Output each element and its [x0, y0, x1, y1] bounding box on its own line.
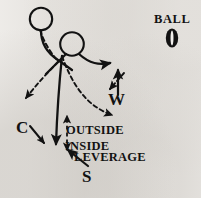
diagram-canvas [0, 0, 201, 198]
receiver-stem-dashed-line [40, 30, 58, 61]
receiver-outside-break-dashed-arrow [26, 62, 58, 98]
wide-receiver-label: W [108, 91, 125, 108]
ball-label: BALL [154, 13, 190, 26]
football-leverage-diagram: BALL W C S OUTSIDE INSIDE LEVERAGE [0, 0, 201, 198]
football-oval-icon [166, 28, 178, 47]
outside-label: OUTSIDE [66, 124, 124, 137]
player-head-circle-icon-back [30, 8, 52, 30]
c-pointer-arrow [30, 126, 44, 143]
player-head-circle-icon-front [60, 32, 84, 56]
safety-label: S [82, 168, 92, 185]
defender-down-path-arrow [56, 56, 62, 144]
leverage-label: LEVERAGE [74, 151, 146, 164]
defender-right-break-arrow [79, 54, 110, 64]
corner-label: C [16, 119, 28, 136]
